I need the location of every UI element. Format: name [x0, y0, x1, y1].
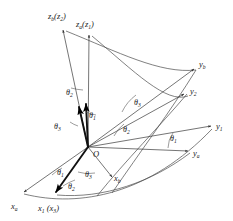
axis-ray-ya: [88, 147, 188, 151]
arc-x-to-y-inner: [57, 153, 190, 196]
axis-label-y2: y2: [189, 86, 197, 97]
bold-axes: [56, 104, 88, 192]
angle-label-theta3-left: θ3: [54, 122, 61, 132]
angle-label-theta1-lower: θ1: [57, 168, 64, 178]
axis-label-y1: y1: [215, 121, 223, 132]
diagram-canvas: zb(z2) za(z1) yb y2 y1 ya xa x1 (x3) xb …: [0, 0, 233, 221]
axis-label-zb-z2: zb(z2): [47, 11, 66, 22]
euler-angle-diagram: zb(z2) za(z1) yb y2 y1 ya xa x1 (x3) xb …: [0, 0, 233, 221]
arc-z-to-y-upper: [66, 31, 196, 70]
angle-label-theta3-lower: θ3: [85, 170, 92, 180]
angle-label-theta3-right: θ3: [134, 98, 141, 108]
arc-z-to-y-lower: [92, 36, 188, 97]
axis-label-x1-x3: x1 (x3): [37, 203, 59, 214]
angle-arc-theta3-left: [70, 122, 78, 126]
thin-axes: [24, 30, 211, 192]
origin-label: O: [93, 149, 99, 159]
great-circle-arcs: [24, 31, 212, 199]
angle-label-theta2-right: θ2: [123, 125, 130, 135]
axis-label-za-z1: za(z1): [75, 19, 94, 30]
axis-ray-xb: [88, 147, 112, 177]
angle-label-theta2-upper: θ2: [66, 88, 73, 98]
arc-x-to-y-outer: [24, 129, 212, 199]
angle-label-theta2-lower: θ2: [68, 182, 75, 192]
axis-labels: zb(z2) za(z1) yb y2 y1 ya xa x1 (x3) xb: [10, 11, 223, 214]
axis-ray-xa: [24, 147, 88, 192]
angle-label-theta1-right: θ1: [170, 134, 177, 144]
axis-label-xa: xa: [10, 201, 18, 212]
angle-arc-theta2-upper: [71, 88, 83, 90]
axis-label-ya: ya: [192, 148, 200, 159]
axis-label-yb: yb: [198, 59, 206, 70]
axis-ray-yb: [88, 69, 194, 147]
axis-label-xb: xb: [113, 173, 121, 184]
angle-label-theta1-upper: θ1: [89, 111, 96, 121]
